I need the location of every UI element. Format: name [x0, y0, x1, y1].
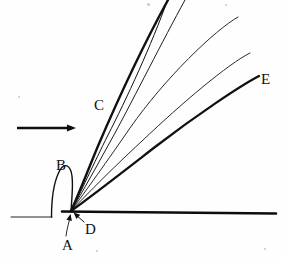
shock-curve-curve-C — [71, 0, 168, 211]
label-b: B — [56, 158, 66, 173]
callout-A-head — [66, 214, 71, 221]
shock-curve-ray-5 — [71, 53, 250, 211]
label-c: C — [94, 98, 104, 113]
label-a: A — [62, 238, 73, 253]
callout-group — [66, 213, 84, 236]
shock-curve-ray-3 — [71, 0, 185, 211]
flow-arrow — [17, 124, 76, 131]
shock-wave-figure: A B C D E — [0, 0, 282, 259]
paper-speck — [264, 248, 266, 250]
label-e: E — [261, 72, 270, 87]
paper-speck — [225, 4, 227, 6]
baseline-main-segment — [62, 212, 276, 214]
paper-speck — [147, 3, 150, 6]
figure-canvas — [0, 0, 282, 259]
paper-speck — [96, 250, 98, 252]
paper-speck — [18, 96, 20, 98]
shock-curve-ray-4 — [71, 17, 238, 211]
shock-curve-group — [52, 0, 260, 217]
shock-curve-curve-B — [52, 166, 73, 217]
label-d: D — [85, 222, 96, 237]
